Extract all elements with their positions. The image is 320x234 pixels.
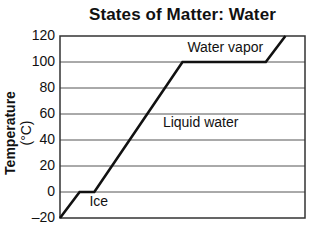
annotation-label: Liquid water: [163, 114, 239, 130]
plot-area: [0, 0, 320, 234]
annotation-label: Ice: [89, 193, 108, 209]
annotation-label: Water vapor: [187, 39, 263, 55]
